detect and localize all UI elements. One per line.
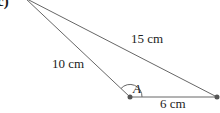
triangle-diagram (0, 0, 220, 113)
side-bottom-label: 6 cm (160, 96, 186, 112)
angle-a-label: A (133, 81, 141, 97)
vertex-right-dot (215, 95, 220, 100)
side-left-label: 10 cm (52, 56, 84, 72)
side-top-label: 15 cm (131, 31, 163, 47)
side-top-line (25, 0, 217, 97)
side-left-line (25, 0, 130, 97)
vertex-a-dot (128, 95, 133, 100)
